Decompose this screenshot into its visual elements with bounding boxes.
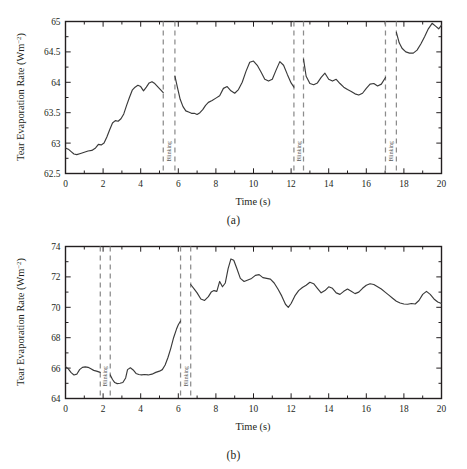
svg-text:14: 14 bbox=[324, 179, 334, 189]
chart-b-y-tick-labels: 646668707274 bbox=[51, 242, 61, 404]
svg-text:Blinking: Blinking bbox=[388, 141, 394, 161]
svg-text:12: 12 bbox=[286, 179, 296, 189]
svg-text:Tear Evaporation Rate (Wm−2): Tear Evaporation Rate (Wm−2) bbox=[15, 33, 28, 161]
svg-text:63.5: 63.5 bbox=[44, 108, 61, 118]
svg-text:65: 65 bbox=[51, 17, 61, 27]
svg-text:8: 8 bbox=[214, 179, 219, 189]
chart-b-y-axis-title: Tear Evaporation Rate (Wm−2) bbox=[15, 258, 28, 386]
svg-text:16: 16 bbox=[362, 179, 372, 189]
figure-panel-b: 02468101214161820 646668707274 BlinkingB… bbox=[0, 235, 467, 469]
svg-text:Tear Evaporation Rate (Wm−2): Tear Evaporation Rate (Wm−2) bbox=[15, 258, 28, 386]
svg-text:62.5: 62.5 bbox=[44, 169, 61, 179]
svg-text:10: 10 bbox=[249, 404, 259, 414]
svg-text:18: 18 bbox=[399, 179, 409, 189]
svg-text:Blinking: Blinking bbox=[183, 366, 189, 386]
chart-a-x-tick-labels: 02468101214161820 bbox=[63, 179, 446, 189]
chart-b-svg: 02468101214161820 646668707274 BlinkingB… bbox=[0, 235, 467, 449]
chart-b-axes bbox=[66, 247, 442, 399]
svg-text:Blinking: Blinking bbox=[102, 366, 108, 386]
svg-text:20: 20 bbox=[437, 179, 447, 189]
svg-text:20: 20 bbox=[437, 404, 447, 414]
svg-text:68: 68 bbox=[51, 333, 61, 343]
svg-text:4: 4 bbox=[138, 404, 143, 414]
svg-text:4: 4 bbox=[138, 179, 143, 189]
svg-text:0: 0 bbox=[63, 404, 68, 414]
svg-text:74: 74 bbox=[51, 242, 61, 252]
chart-b-plot-frame bbox=[66, 247, 442, 399]
chart-b-x-axis-title: Time (s) bbox=[235, 421, 270, 433]
chart-a-svg: 02468101214161820 62.56363.56464.565 Bli… bbox=[0, 0, 467, 214]
svg-text:18: 18 bbox=[399, 404, 409, 414]
panel-b-caption: (b) bbox=[0, 449, 467, 461]
svg-text:10: 10 bbox=[249, 179, 259, 189]
figure-panel-a: 02468101214161820 62.56363.56464.565 Bli… bbox=[0, 0, 467, 234]
panel-a-caption: (a) bbox=[0, 214, 467, 226]
svg-text:14: 14 bbox=[324, 404, 334, 414]
svg-text:Blinking: Blinking bbox=[296, 141, 302, 161]
svg-text:2: 2 bbox=[101, 179, 106, 189]
svg-text:16: 16 bbox=[362, 404, 372, 414]
svg-text:64: 64 bbox=[51, 394, 61, 404]
svg-text:6: 6 bbox=[176, 179, 181, 189]
svg-text:63: 63 bbox=[51, 139, 61, 149]
svg-text:6: 6 bbox=[176, 404, 181, 414]
svg-text:Blinking: Blinking bbox=[166, 141, 172, 161]
svg-text:66: 66 bbox=[51, 364, 61, 374]
chart-a-y-axis-title: Tear Evaporation Rate (Wm−2) bbox=[15, 33, 28, 161]
svg-text:72: 72 bbox=[51, 272, 61, 282]
svg-text:0: 0 bbox=[63, 179, 68, 189]
svg-text:2: 2 bbox=[101, 404, 106, 414]
svg-text:70: 70 bbox=[51, 303, 61, 313]
chart-a-y-tick-labels: 62.56363.56464.565 bbox=[44, 17, 61, 179]
svg-text:12: 12 bbox=[286, 404, 296, 414]
svg-text:64.5: 64.5 bbox=[44, 47, 61, 57]
figure-page: 02468101214161820 62.56363.56464.565 Bli… bbox=[0, 0, 467, 469]
svg-text:64: 64 bbox=[51, 78, 61, 88]
chart-b-x-tick-labels: 02468101214161820 bbox=[63, 404, 446, 414]
chart-a-x-axis-title: Time (s) bbox=[235, 196, 270, 208]
svg-text:8: 8 bbox=[214, 404, 219, 414]
